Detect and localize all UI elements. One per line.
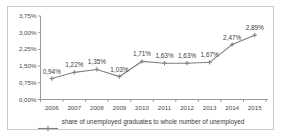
legend-marker-icon bbox=[37, 118, 59, 125]
y-axis-tick-label: 0,00% bbox=[11, 96, 37, 103]
legend-label-unemployed-graduates: share of unemployed graduates to whole n… bbox=[62, 118, 245, 125]
series-data-label: 2,89% bbox=[242, 24, 268, 31]
x-axis-tick-label: 2009 bbox=[108, 104, 130, 111]
x-axis-tick-label: 2013 bbox=[199, 104, 221, 111]
y-axis-tick-label: 1,50% bbox=[11, 62, 37, 69]
series-data-label: 0,94% bbox=[39, 68, 65, 75]
series-marker bbox=[72, 70, 76, 74]
y-axis-tick-label: 2,25% bbox=[11, 45, 37, 52]
series-marker bbox=[185, 61, 189, 65]
x-axis-tick-label: 2008 bbox=[86, 104, 108, 111]
series-data-label: 1,67% bbox=[197, 51, 223, 58]
x-axis-tick-label: 2012 bbox=[176, 104, 198, 111]
series-marker bbox=[50, 76, 54, 80]
x-axis-tick-label: 2015 bbox=[244, 104, 266, 111]
x-axis-tick-label: 2007 bbox=[63, 104, 85, 111]
y-axis-tick-label: 3,00% bbox=[11, 29, 37, 36]
y-axis-tick-label: 3,75% bbox=[11, 12, 37, 19]
series-data-label: 1,35% bbox=[84, 58, 110, 65]
series-data-label: 2,47% bbox=[219, 34, 245, 41]
series-marker bbox=[162, 61, 166, 65]
series-marker bbox=[95, 67, 99, 71]
series-marker bbox=[253, 33, 257, 37]
x-axis-tick-label: 2010 bbox=[131, 104, 153, 111]
x-axis-tick-label: 2014 bbox=[221, 104, 243, 111]
x-axis-tick-label: 2006 bbox=[41, 104, 63, 111]
chart-legend: share of unemployed graduates to whole n… bbox=[7, 113, 274, 129]
x-axis-tick-label: 2011 bbox=[154, 104, 176, 111]
series-data-label: 1,03% bbox=[106, 66, 132, 73]
y-axis-tick-label: 0,75% bbox=[11, 79, 37, 86]
chart-figure: 0,00%0,75%1,50%2,25%3,00%3,75% 200620072… bbox=[0, 0, 281, 136]
